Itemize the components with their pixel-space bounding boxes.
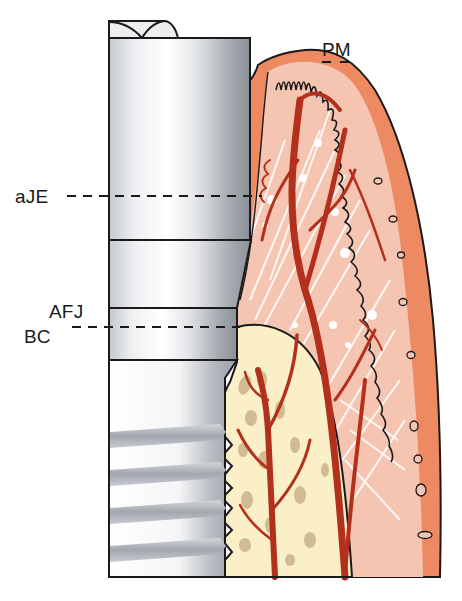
abutment-upper	[109, 38, 250, 240]
implant-collar	[109, 308, 237, 360]
label-afj: AFJ	[49, 302, 83, 321]
abutment-taper	[109, 240, 251, 308]
label-bc: BC	[24, 327, 51, 346]
label-pm: PM	[322, 40, 351, 59]
label-aje: aJE	[15, 187, 48, 206]
